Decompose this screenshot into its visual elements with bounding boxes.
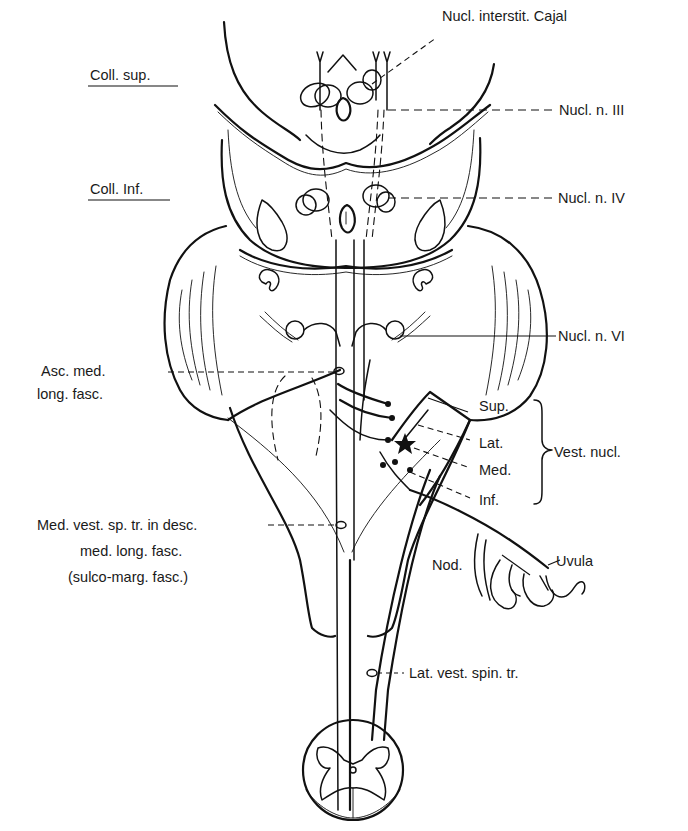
left-labels: Coll. sup. Coll. Inf. Asc. med. long. fa…: [37, 67, 197, 585]
spinal-cord-section: [303, 720, 403, 820]
label-vest-med: Med.: [479, 462, 511, 478]
label-coll-sup: Coll. sup.: [90, 67, 150, 83]
label-nucl-n-iv: Nucl. n. IV: [558, 190, 625, 206]
label-asc-mlf-2: long. fasc.: [37, 386, 103, 402]
label-vest-sup: Sup.: [479, 398, 509, 414]
label-uvula: Uvula: [556, 553, 594, 569]
label-coll-inf: Coll. Inf.: [90, 181, 143, 197]
pons-section: [165, 226, 547, 420]
label-vest-inf: Inf.: [479, 492, 499, 508]
label-vest-lat: Lat.: [479, 435, 503, 451]
inferior-colliculus-section: [215, 105, 490, 275]
label-nodulus: Nod.: [432, 557, 463, 573]
label-nucl-n-iii: Nucl. n. III: [559, 102, 624, 118]
label-asc-mlf-1: Asc. med.: [41, 363, 105, 379]
label-med-vst-2: med. long. fasc.: [80, 543, 182, 559]
longitudinal-tracts: [321, 110, 440, 810]
label-vest-nucl: Vest. nucl.: [554, 444, 621, 460]
label-nucl-cajal: Nucl. interstit. Cajal: [442, 8, 567, 24]
right-labels: Nucl. interstit. Cajal Nucl. n. III Nucl…: [409, 8, 625, 681]
label-med-vst-3: (sulco-marg. fasc.): [68, 569, 188, 585]
label-med-vst-1: Med. vest. sp. tr. in desc.: [37, 517, 197, 533]
label-nucl-n-vi: Nucl. n. VI: [558, 328, 625, 344]
label-lat-vest-spin-tr: Lat. vest. spin. tr.: [409, 665, 519, 681]
vestibular-pathways-diagram: Coll. sup. Coll. Inf. Asc. med. long. fa…: [0, 0, 688, 831]
